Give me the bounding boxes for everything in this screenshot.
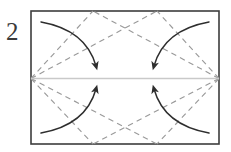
fold-arrow-bottom-left <box>41 89 96 133</box>
fold-line-upper-right-long <box>93 11 219 79</box>
fold-line-lower-right-long <box>93 79 219 145</box>
step-number-label: 2 <box>6 18 19 45</box>
fold-line-upper-left <box>31 11 93 79</box>
origami-step-figure: 2 <box>0 0 231 152</box>
fold-arrow-bottom-right <box>154 89 209 133</box>
fold-arrow-top-right <box>154 22 209 66</box>
fold-line-upper-left-long <box>31 11 157 79</box>
figure-canvas: 2 <box>0 0 231 152</box>
paper-sheet-outline <box>31 11 219 144</box>
fold-crease-lines <box>31 11 219 144</box>
fold-line-upper-right <box>157 11 219 79</box>
fold-line-lower-left-long <box>31 79 157 145</box>
fold-arrow-top-left <box>41 22 96 66</box>
